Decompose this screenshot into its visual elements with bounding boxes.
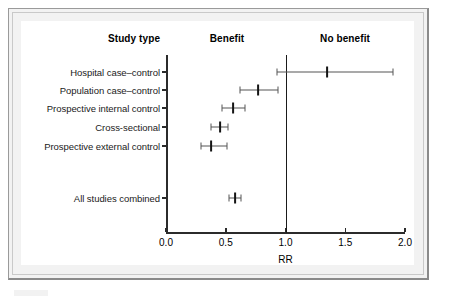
y-axis-tick xyxy=(162,145,166,147)
header-study-type: Study type xyxy=(108,33,160,44)
confidence-interval-cap xyxy=(226,143,227,150)
confidence-interval-cap xyxy=(278,87,279,94)
x-axis-tick xyxy=(285,228,287,232)
forest-plot: Study type Benefit No benefit 0.00.51.01… xyxy=(0,0,454,301)
row-label: Hospital case–control xyxy=(70,67,160,78)
point-estimate xyxy=(257,85,259,96)
y-axis-tick xyxy=(162,107,166,109)
confidence-interval-cap xyxy=(393,69,394,76)
row-label: Prospective external control xyxy=(44,141,160,152)
confidence-interval-cap xyxy=(241,195,242,202)
x-axis-title: RR xyxy=(278,254,292,265)
y-axis-spine xyxy=(166,55,168,232)
row-label: Cross-sectional xyxy=(95,122,160,133)
confidence-interval-cap xyxy=(200,143,201,150)
row-label: Population case–control xyxy=(60,85,160,96)
x-axis-tick xyxy=(404,228,406,232)
confidence-interval-cap xyxy=(240,87,241,94)
y-axis-tick xyxy=(162,71,166,73)
confidence-interval-cap xyxy=(244,105,245,112)
header-no-benefit: No benefit xyxy=(320,33,370,44)
confidence-interval-cap xyxy=(229,195,230,202)
x-axis-tick-label: 2.0 xyxy=(398,237,412,248)
x-axis-tick-label: 0.0 xyxy=(159,237,173,248)
confidence-interval-cap xyxy=(228,124,229,131)
x-axis-tick-label: 1.5 xyxy=(338,237,352,248)
x-axis-tick xyxy=(165,228,167,232)
confidence-interval-cap xyxy=(211,124,212,131)
point-estimate xyxy=(219,122,221,133)
row-label: Prospective internal control xyxy=(47,103,160,114)
confidence-interval-cap xyxy=(222,105,223,112)
x-axis-tick-label: 1.0 xyxy=(279,237,293,248)
y-axis-tick xyxy=(162,126,166,128)
point-estimate xyxy=(211,141,213,152)
reference-line-rr-1 xyxy=(286,55,288,233)
x-axis-tick-label: 0.5 xyxy=(219,237,233,248)
summary-point-estimate xyxy=(234,193,236,204)
x-axis-tick xyxy=(225,228,227,232)
row-label: All studies combined xyxy=(74,193,160,204)
confidence-interval-line xyxy=(240,90,278,91)
confidence-interval-line xyxy=(277,72,393,73)
y-axis-tick xyxy=(162,197,166,199)
x-axis-tick xyxy=(345,228,347,232)
confidence-interval-cap xyxy=(277,69,278,76)
header-benefit: Benefit xyxy=(210,33,245,44)
point-estimate xyxy=(326,67,328,78)
confidence-interval-line xyxy=(201,146,227,147)
point-estimate xyxy=(232,103,234,114)
y-axis-tick xyxy=(162,89,166,91)
